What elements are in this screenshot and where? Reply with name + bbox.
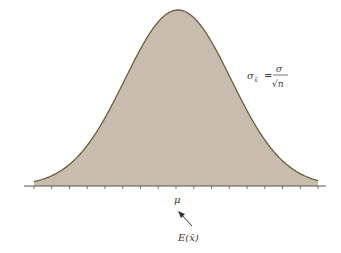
standard-error-formula: σ x̄ = σ √n [247,64,288,89]
expected-value-label: E(x̄) [177,232,199,243]
normal-curve-area [34,10,318,186]
normal-distribution-diagram: σ x̄ = σ √n μ E(x̄) [0,0,341,253]
formula-denominator: √n [272,79,284,89]
formula-subscript: x̄ [254,76,258,84]
mean-label: μ [174,194,181,205]
arrow-icon [178,211,192,226]
formula-numerator: σ [276,64,283,74]
